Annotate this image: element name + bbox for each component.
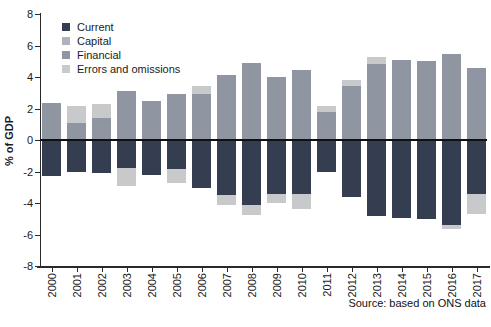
x-tick-mark [327, 268, 328, 272]
bar-segment-financial-2014 [392, 60, 411, 140]
legend-swatch-icon [62, 65, 70, 73]
bar-segment-financial-2008 [242, 63, 261, 140]
bar-segment-current-2017 [467, 140, 486, 194]
x-tick-label: 2001 [71, 273, 83, 297]
x-tick-mark [152, 268, 153, 272]
bar-segment-financial-2004 [142, 101, 161, 140]
x-tick-label: 2016 [446, 273, 458, 297]
bar-segment-financial-2015 [417, 61, 436, 140]
x-tick-mark [102, 268, 103, 272]
legend-item-current: Current [62, 20, 180, 34]
bar-segment-current-2009 [267, 140, 286, 194]
x-tick-label: 2011 [321, 273, 333, 297]
y-tick-label: -6 [7, 229, 33, 241]
bar-segment-current-2002 [92, 140, 111, 173]
bar-segment-current-2014 [392, 140, 411, 218]
bar-segment-financial-2011 [317, 112, 336, 140]
legend-swatch-icon [62, 37, 70, 45]
x-tick-label: 2000 [46, 273, 58, 297]
x-tick-label: 2015 [421, 273, 433, 297]
bar-segment-errors-and-omissions-2002 [92, 104, 111, 118]
x-tick-label: 2002 [96, 273, 108, 297]
x-tick-mark [402, 268, 403, 272]
bar-segment-financial-2017 [467, 68, 486, 140]
x-tick-mark [252, 268, 253, 272]
bar-segment-errors-and-omissions-2005 [167, 169, 186, 183]
x-tick-label: 2013 [371, 273, 383, 297]
legend-label: Capital [77, 34, 111, 48]
y-tick-label: 4 [7, 71, 33, 83]
bar-segment-errors-and-omissions-2016 [442, 225, 461, 229]
bar-segment-current-2008 [242, 140, 261, 205]
x-tick-mark [202, 268, 203, 272]
bar-segment-financial-2001 [67, 123, 86, 140]
legend-label: Current [77, 20, 114, 34]
bar-segment-current-2004 [142, 140, 161, 175]
bar-segment-errors-and-omissions-2012 [342, 80, 361, 86]
bar-segment-errors-and-omissions-2009 [267, 194, 286, 203]
bar-segment-errors-and-omissions-2010 [292, 194, 311, 210]
zero-baseline [40, 139, 487, 141]
x-tick-label: 2005 [171, 273, 183, 297]
y-tick-label: -4 [7, 197, 33, 209]
bar-segment-errors-and-omissions-2008 [242, 205, 261, 215]
bar-segment-financial-2002 [92, 118, 111, 140]
bar-segment-current-2003 [117, 140, 136, 168]
bar-segment-financial-2006 [192, 94, 211, 140]
y-tick-label: 0 [7, 134, 33, 146]
x-tick-label: 2010 [296, 273, 308, 297]
bar-segment-current-2010 [292, 140, 311, 194]
bar-segment-errors-and-omissions-2013 [367, 57, 386, 63]
legend-swatch-icon [62, 23, 70, 31]
x-tick-mark [277, 268, 278, 272]
bar-segment-financial-2007 [217, 75, 236, 140]
x-tick-mark [227, 268, 228, 272]
bar-segment-financial-2009 [267, 77, 286, 140]
bar-segment-current-2005 [167, 140, 186, 169]
x-tick-mark [452, 268, 453, 272]
bar-segment-financial-2003 [117, 91, 136, 140]
bar-segment-financial-2013 [367, 64, 386, 140]
x-tick-mark [352, 268, 353, 272]
legend-item-errors-and-omissions: Errors and omissions [62, 62, 180, 76]
x-tick-mark [377, 268, 378, 272]
x-tick-label: 2003 [121, 273, 133, 297]
x-tick-label: 2007 [221, 273, 233, 297]
x-tick-mark [302, 268, 303, 272]
x-tick-label: 2009 [271, 273, 283, 297]
bar-segment-errors-and-omissions-2007 [217, 195, 236, 205]
y-tick-label: 6 [7, 40, 33, 52]
bar-segment-financial-2005 [167, 94, 186, 140]
x-tick-label: 2006 [196, 273, 208, 297]
bar-segment-current-2000 [42, 140, 61, 176]
bar-segment-financial-2016 [442, 54, 461, 140]
legend: CurrentCapitalFinancialErrors and omissi… [62, 20, 180, 76]
bar-segment-errors-and-omissions-2003 [117, 168, 136, 186]
x-tick-mark [427, 268, 428, 272]
bar-segment-current-2011 [317, 140, 336, 172]
bar-segment-financial-2012 [342, 86, 361, 140]
x-tick-label: 2012 [346, 273, 358, 297]
legend-item-capital: Capital [62, 34, 180, 48]
bar-segment-errors-and-omissions-2011 [317, 106, 336, 112]
legend-label: Errors and omissions [77, 62, 180, 76]
legend-swatch-icon [62, 51, 70, 59]
bar-segment-current-2015 [417, 140, 436, 219]
bar-segment-current-2013 [367, 140, 386, 216]
bar-segment-current-2016 [442, 140, 461, 225]
bar-segment-current-2006 [192, 140, 211, 188]
bar-segment-errors-and-omissions-2006 [192, 86, 211, 93]
y-tick-label: 8 [7, 8, 33, 20]
bar-segment-current-2001 [67, 140, 86, 172]
y-tick-label: 2 [7, 103, 33, 115]
bar-segment-errors-and-omissions-2017 [467, 194, 486, 214]
x-tick-label: 2017 [471, 273, 483, 297]
legend-item-financial: Financial [62, 48, 180, 62]
legend-label: Financial [77, 48, 121, 62]
x-tick-label: 2014 [396, 273, 408, 297]
bar-segment-financial-2010 [292, 70, 311, 140]
x-tick-mark [77, 268, 78, 272]
x-tick-label: 2004 [146, 273, 158, 297]
y-tick-label: -2 [7, 166, 33, 178]
x-tick-mark [177, 268, 178, 272]
